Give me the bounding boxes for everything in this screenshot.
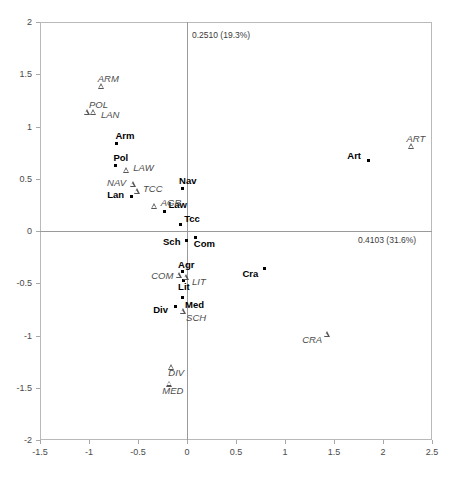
row-point-marker [181, 296, 184, 299]
x-zero-axis-line [40, 231, 432, 232]
column-point-label: NAV [107, 178, 126, 188]
row-point-label: Pol [113, 153, 128, 163]
x-tick-label: 1.5 [314, 447, 354, 457]
x-tick-mark [383, 440, 384, 444]
row-point-marker [185, 239, 188, 242]
column-point-label: SCH [186, 313, 206, 323]
row-point-marker [181, 187, 184, 190]
column-point-label: LAW [133, 163, 153, 173]
x-tick-label: 1 [265, 447, 305, 457]
y-tick-mark [36, 283, 40, 284]
y-tick-label: 1.5 [6, 69, 32, 79]
x-axis-caption: 0.4103 (31.6%) [358, 235, 416, 245]
y-axis-caption: 0.2510 (19.3%) [192, 30, 250, 40]
column-point-label: TCC [143, 184, 163, 194]
x-tick-mark [236, 440, 237, 444]
y-tick-mark [36, 179, 40, 180]
column-point-label: LIT [192, 277, 206, 287]
column-point-marker [324, 331, 330, 337]
row-point-label: Lan [107, 190, 124, 200]
row-point-label: Sch [163, 237, 180, 247]
row-point-marker [179, 223, 182, 226]
x-tick-mark [432, 440, 433, 444]
x-tick-label: 0.5 [216, 447, 256, 457]
y-tick-mark [36, 440, 40, 441]
row-point-label: Agr [178, 260, 194, 270]
column-point-marker [183, 274, 189, 280]
column-point-label: AGR [161, 198, 182, 208]
x-tick-label: -1 [69, 447, 109, 457]
y-tick-label: -0.5 [6, 278, 32, 288]
x-tick-label: -0.5 [118, 447, 158, 457]
x-tick-mark [138, 440, 139, 444]
y-tick-label: 0 [6, 226, 32, 236]
y-tick-mark [36, 22, 40, 23]
scatter-plot-chart: -1.5-1-0.500.511.522.5 21.510.50-0.5-1-1… [0, 0, 455, 479]
column-point-label: MED [162, 386, 183, 396]
column-point-marker [176, 272, 182, 278]
row-point-marker [115, 142, 118, 145]
column-point-marker [180, 308, 186, 314]
row-point-label: Lit [178, 282, 190, 292]
row-point-label: Arm [115, 131, 134, 141]
x-tick-mark [40, 440, 41, 444]
y-tick-label: -2 [6, 435, 32, 445]
column-point-marker [123, 167, 129, 173]
y-tick-label: -1 [6, 331, 32, 341]
row-point-label: Art [347, 151, 361, 161]
column-point-label: DIV [168, 368, 184, 378]
y-tick-mark [36, 127, 40, 128]
column-point-marker [90, 109, 96, 115]
y-tick-mark [36, 336, 40, 337]
row-point-marker [263, 267, 266, 270]
y-tick-label: 2 [6, 17, 32, 27]
y-tick-label: 0.5 [6, 174, 32, 184]
row-point-label: Nav [179, 176, 196, 186]
row-point-marker [130, 195, 133, 198]
y-tick-mark [36, 231, 40, 232]
row-point-label: Div [153, 305, 168, 315]
x-tick-label: 2.5 [412, 447, 452, 457]
column-point-marker [134, 188, 140, 194]
y-tick-label: 1 [6, 122, 32, 132]
x-tick-label: 0 [167, 447, 207, 457]
x-tick-mark [89, 440, 90, 444]
row-point-marker [174, 305, 177, 308]
y-tick-label: -1.5 [6, 383, 32, 393]
column-point-label: CRA [302, 335, 322, 345]
column-point-label: COM [151, 271, 173, 281]
x-tick-label: -1.5 [20, 447, 60, 457]
row-point-marker [114, 164, 117, 167]
x-tick-mark [285, 440, 286, 444]
row-point-marker [163, 210, 166, 213]
y-tick-mark [36, 74, 40, 75]
column-point-marker [130, 181, 136, 187]
row-point-marker [367, 159, 370, 162]
row-point-label: Cra [242, 269, 258, 279]
column-point-label: LAN [101, 110, 119, 120]
y-tick-mark [36, 388, 40, 389]
x-tick-label: 2 [363, 447, 403, 457]
column-point-label: ART [406, 134, 425, 144]
column-point-marker [151, 203, 157, 209]
x-tick-mark [334, 440, 335, 444]
row-point-label: Tcc [184, 214, 200, 224]
x-tick-mark [187, 440, 188, 444]
row-point-label: Com [194, 239, 215, 249]
row-point-label: Med [185, 300, 204, 310]
column-point-label: ARM [98, 74, 119, 84]
